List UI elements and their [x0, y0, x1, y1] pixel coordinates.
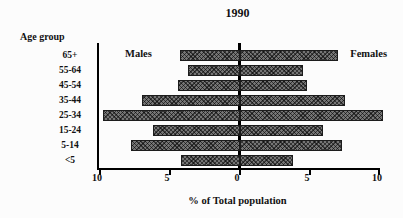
x-tick-label-0: 10: [92, 172, 102, 183]
age-label-65: 65+: [42, 49, 98, 61]
population-pyramid-figure: 1990 Age group 65+55-6445-5435-4425-3415…: [0, 0, 403, 218]
females-series-label: Females: [350, 48, 387, 59]
bar-females-25-34: [240, 110, 383, 121]
x-tick-label-1: 5: [165, 172, 170, 183]
age-axis-labels: 65+55-6445-5435-4425-3415-245-14<5: [42, 43, 98, 168]
age-label-35-44: 35-44: [42, 94, 98, 106]
x-axis-tick-labels: 1050510: [97, 172, 378, 184]
bar-males-5: [181, 155, 240, 166]
males-series-label: Males: [125, 48, 152, 59]
chart-title: 1990: [97, 6, 378, 21]
bar-males-15-24: [153, 125, 240, 136]
age-label-15-24: 15-24: [42, 124, 98, 136]
age-label-55-64: 55-64: [42, 64, 98, 76]
bar-females-5-14: [240, 140, 342, 151]
x-tick-label-2: 0: [235, 172, 240, 183]
x-tick-label-4: 10: [372, 172, 382, 183]
y-axis-title: Age group: [20, 31, 65, 42]
bar-males-55-64: [188, 65, 240, 76]
x-axis-title: % of Total population: [97, 195, 378, 206]
bar-males-5-14: [131, 140, 240, 151]
bar-females-65: [240, 50, 338, 61]
age-label-45-54: 45-54: [42, 79, 98, 91]
bar-females-35-44: [240, 95, 345, 106]
bar-males-65: [180, 50, 240, 61]
bar-males-25-34: [103, 110, 240, 121]
age-label-5: <5: [42, 154, 98, 166]
age-label-25-34: 25-34: [42, 109, 98, 121]
x-tick-label-3: 5: [305, 172, 310, 183]
bar-males-45-54: [178, 80, 240, 91]
bar-females-55-64: [240, 65, 303, 76]
bar-males-35-44: [142, 95, 240, 106]
plot-area: Males Females: [97, 43, 380, 170]
bar-females-45-54: [240, 80, 307, 91]
bar-females-15-24: [240, 125, 323, 136]
bar-females-5: [240, 155, 293, 166]
age-label-5-14: 5-14: [42, 139, 98, 151]
